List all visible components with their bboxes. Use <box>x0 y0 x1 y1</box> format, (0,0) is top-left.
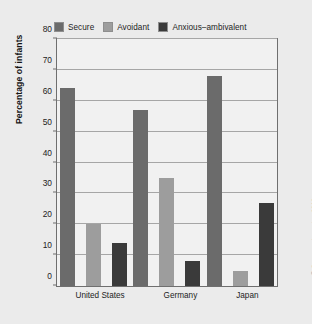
y-tick-label: 10 <box>43 240 52 250</box>
y-tick-label: 0 <box>47 271 52 281</box>
bar-group <box>60 39 127 286</box>
x-axis-label: Germany <box>164 291 198 300</box>
legend-label: Secure <box>68 23 94 32</box>
bar[interactable] <box>185 261 200 286</box>
legend-label: Anxious–ambivalent <box>172 23 246 32</box>
y-tick-label: 60 <box>43 86 52 96</box>
bar-chart-figure: SecureAvoidantAnxious–ambivalent Percent… <box>0 0 312 324</box>
legend-entry[interactable]: Secure <box>54 22 94 32</box>
legend-swatch-icon <box>103 22 113 32</box>
bar[interactable] <box>112 243 127 286</box>
bar[interactable] <box>259 203 274 286</box>
legend-swatch-icon <box>158 22 168 32</box>
bar[interactable] <box>207 76 222 286</box>
y-tick-label: 40 <box>43 148 52 158</box>
bar[interactable] <box>86 224 101 286</box>
copyright-credit: © Cengage Learning 2013 <box>311 198 312 275</box>
x-axis-label: Japan <box>236 291 258 300</box>
legend-entry[interactable]: Avoidant <box>103 22 149 32</box>
y-axis-title: Percentage of infants <box>14 0 24 124</box>
x-axis-label: United States <box>75 291 124 300</box>
legend-label: Avoidant <box>117 23 149 32</box>
x-axis-labels: United StatesGermanyJapan <box>56 291 278 300</box>
legend-entry[interactable]: Anxious–ambivalent <box>158 22 246 32</box>
bar-group <box>133 39 200 286</box>
bar[interactable] <box>233 271 248 286</box>
y-tick-label: 70 <box>43 55 52 65</box>
bar[interactable] <box>159 178 174 286</box>
y-tick-label: 30 <box>43 178 52 188</box>
chart-legend: SecureAvoidantAnxious–ambivalent <box>54 20 294 34</box>
y-tick-label: 50 <box>43 117 52 127</box>
bar-groups <box>57 39 277 286</box>
plot-area: 01020304050607080 <box>56 38 278 287</box>
y-tick-label: 80 <box>43 24 52 34</box>
y-tick-label: 20 <box>43 209 52 219</box>
legend-swatch-icon <box>54 22 64 32</box>
bar[interactable] <box>60 88 75 286</box>
bar[interactable] <box>133 110 148 286</box>
bar-group <box>207 39 274 286</box>
